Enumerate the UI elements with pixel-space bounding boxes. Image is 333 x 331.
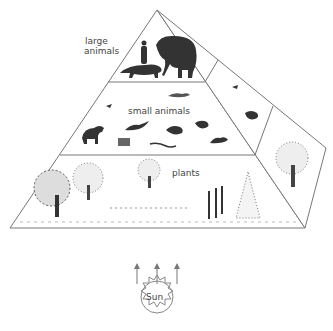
energy-pyramid-diagram [0, 0, 333, 331]
plants-label: plants [172, 168, 200, 178]
large-animals-label-line1: large [85, 36, 108, 46]
small-animals-label: small animals [128, 106, 190, 116]
sun-label: Sun [146, 292, 163, 302]
large-animals-label-line2: animals [84, 46, 119, 56]
